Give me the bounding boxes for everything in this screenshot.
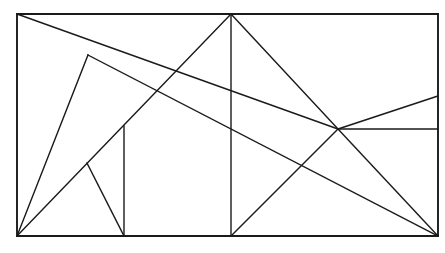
figure-background [0, 0, 445, 253]
geometry-figure-canvas [0, 0, 445, 253]
figure-svg [0, 0, 445, 253]
